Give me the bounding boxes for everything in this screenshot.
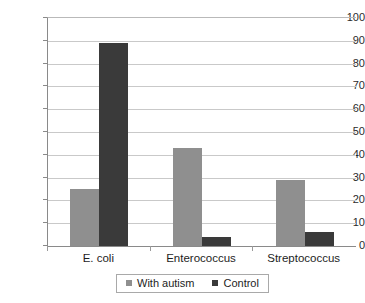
x-tick-mark — [150, 246, 151, 251]
legend-item-control: Control — [212, 277, 258, 289]
gridline — [48, 86, 356, 87]
x-tick-mark — [47, 246, 48, 251]
bar-streptococcus-control — [305, 232, 334, 246]
gridline — [48, 109, 356, 110]
bar-e-coli-control — [99, 43, 128, 246]
legend-item-with-autism: With autism — [126, 277, 194, 289]
legend-swatch-with-autism — [126, 280, 132, 286]
bar-chart: 1009080706050403020100 E. coliEnterococc… — [0, 0, 365, 303]
legend-swatch-control — [212, 280, 218, 286]
gridline — [48, 178, 356, 179]
x-category-label: E. coli — [47, 252, 150, 264]
x-category-label: Streptococcus — [252, 252, 355, 264]
bar-e-coli-with-autism — [70, 189, 99, 246]
gridline — [48, 155, 356, 156]
gridline — [48, 41, 356, 42]
bar-streptococcus-with-autism — [276, 180, 305, 246]
gridline — [48, 132, 356, 133]
bar-enterococcus-with-autism — [173, 148, 202, 246]
legend-label-with-autism: With autism — [137, 277, 194, 289]
legend-label-control: Control — [223, 277, 258, 289]
chart-legend: With autism Control — [116, 274, 269, 293]
bar-enterococcus-control — [202, 237, 231, 246]
gridline — [48, 64, 356, 65]
x-category-label: Enterococcus — [150, 252, 253, 264]
plot-area — [47, 17, 356, 246]
gridline — [48, 246, 356, 247]
x-tick-mark — [252, 246, 253, 251]
